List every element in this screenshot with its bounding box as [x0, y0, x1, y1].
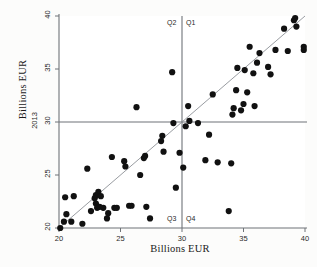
scatter-point [272, 47, 278, 53]
scatter-point [68, 219, 74, 225]
scatter-point [62, 194, 68, 200]
scatter-point [240, 101, 246, 107]
scatter-point [292, 15, 298, 21]
scatter-point [84, 166, 90, 172]
scatter-point [228, 160, 234, 166]
scatter-point [147, 215, 153, 221]
scatter-point [250, 70, 256, 76]
scatter-point [114, 205, 120, 211]
x-axis-tick-label: 25 [111, 234, 131, 243]
scatter-point [143, 204, 149, 210]
scatter-point [293, 24, 299, 30]
y-axis-series-name: 2013 [30, 108, 39, 134]
scatter-point [173, 185, 179, 191]
y-axis-tick-label: 25 [43, 164, 52, 184]
scatter-point [79, 221, 85, 227]
x-axis-tick-label: 35 [234, 234, 254, 243]
scatter-point [281, 26, 287, 32]
scatter-point [137, 172, 143, 178]
quadrant-label-q4: Q4 [186, 215, 195, 222]
scatter-point [176, 150, 182, 156]
scatter-point [242, 67, 248, 73]
scatter-point [185, 103, 191, 109]
scatter-point [104, 215, 110, 221]
scatter-point [186, 118, 192, 124]
scatter-point [251, 103, 257, 109]
scatter-point [105, 210, 111, 216]
y-axis-tick-label: 35 [43, 58, 52, 78]
scatter-point [301, 47, 307, 53]
quadrant-label-q1: Q1 [186, 19, 195, 26]
scatter-point [183, 123, 189, 129]
scatter-point [159, 133, 165, 139]
scatter-point [170, 120, 176, 126]
scatter-point [100, 205, 106, 211]
scatter-point [226, 208, 232, 214]
x-axis-tick-label: 30 [172, 234, 192, 243]
scatter-point [254, 60, 260, 66]
scatter-point [158, 138, 164, 144]
scatter-point [234, 65, 240, 71]
scatter-point [180, 164, 186, 170]
scatter-point [247, 44, 253, 50]
scatter-point [142, 153, 148, 159]
scatter-chart-figure: Billions EUR Billions EUR 20253035402025… [0, 0, 317, 267]
scatter-point [285, 48, 291, 54]
scatter-point [160, 149, 166, 155]
scatter-point [61, 219, 67, 225]
scatter-point [88, 208, 94, 214]
scatter-point [256, 50, 262, 56]
y-axis-tick-label: 40 [43, 5, 52, 25]
scatter-point [128, 203, 134, 209]
scatter-point [63, 211, 69, 217]
scatter-point [195, 120, 201, 126]
scatter-point [244, 89, 250, 95]
scatter-point [133, 104, 139, 110]
y-axis-tick-label: 30 [43, 111, 52, 131]
x-axis-tick-label: 40 [295, 234, 315, 243]
scatter-point [57, 225, 63, 231]
scatter-point [98, 193, 104, 199]
x-axis-tick-label: 20 [49, 234, 69, 243]
scatter-point [109, 154, 115, 160]
scatter-point [210, 91, 216, 97]
quadrant-label-q2: Q2 [167, 19, 176, 26]
scatter-point [169, 69, 175, 75]
scatter-point [233, 87, 239, 93]
scatter-point [122, 163, 128, 169]
quadrant-label-q3: Q3 [167, 215, 176, 222]
scatter-point [267, 71, 273, 77]
scatter-point [265, 64, 271, 70]
scatter-point [215, 159, 221, 165]
scatter-point [238, 107, 244, 113]
scatter-point [231, 105, 237, 111]
scatter-point [229, 111, 235, 117]
scatter-point [71, 193, 77, 199]
scatter-point [202, 157, 208, 163]
scatter-point [121, 158, 127, 164]
scatter-point [206, 132, 212, 138]
